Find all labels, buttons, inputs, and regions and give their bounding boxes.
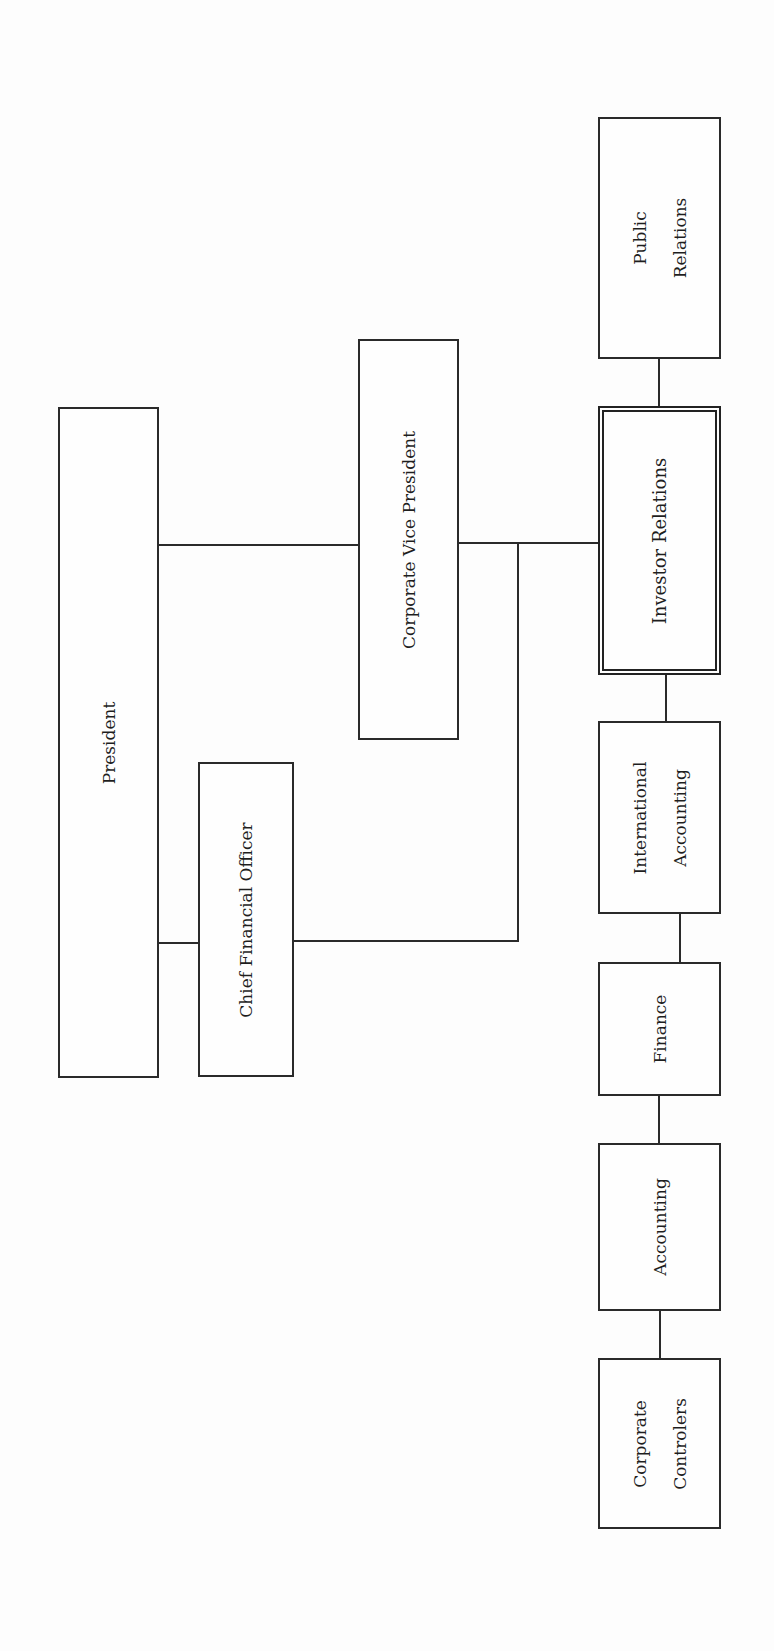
node-chief-financial-officer[interactable]: Chief Financial Officer: [198, 762, 294, 1077]
node-corporate-vice-president[interactable]: Corporate Vice President: [358, 339, 459, 740]
connector-accounting-controlers: [659, 1310, 661, 1359]
connector-finance-accounting: [658, 1095, 660, 1144]
connector-president-cvp: [158, 544, 359, 546]
node-international-accounting[interactable]: International Accounting: [598, 721, 721, 914]
node-label: Corporate Controlers: [620, 1398, 700, 1490]
connector-trunk-vertical: [517, 542, 519, 942]
node-finance[interactable]: Finance: [598, 962, 721, 1096]
connector-president-cfo: [158, 942, 199, 944]
investor-relations-label: Investor Relations: [640, 457, 680, 624]
node-label: Corporate Vice President: [389, 431, 429, 649]
node-label: Accounting: [640, 1178, 680, 1276]
node-label: Finance: [640, 995, 680, 1064]
node-label: International Accounting: [620, 761, 700, 874]
node-accounting[interactable]: Accounting: [598, 1143, 721, 1311]
connector-investor-intl: [665, 674, 667, 722]
node-public-relations[interactable]: Public Relations: [598, 117, 721, 359]
accounting-label: Accounting: [640, 1178, 680, 1276]
node-label: President: [89, 701, 129, 784]
node-investor-relations[interactable]: Investor Relations: [598, 406, 721, 675]
corporate-controlers-label-line1: Corporate: [620, 1398, 660, 1490]
president-label: President: [89, 701, 129, 784]
node-label: Public Relations: [620, 198, 700, 279]
public-relations-label-line1: Public: [620, 198, 660, 279]
connector-intl-finance: [679, 913, 681, 963]
intl-accounting-label-line1: International: [620, 761, 660, 874]
connector-public-investor: [658, 358, 660, 407]
cvp-label: Corporate Vice President: [389, 431, 429, 649]
connector-cfo-trunk: [293, 940, 519, 942]
public-relations-label-line2: Relations: [660, 198, 700, 279]
org-chart-canvas: President Chief Financial Officer Corpor…: [0, 0, 774, 1651]
node-label: Investor Relations: [640, 457, 680, 624]
intl-accounting-label-line2: Accounting: [660, 761, 700, 874]
finance-label: Finance: [640, 995, 680, 1064]
cfo-label: Chief Financial Officer: [226, 822, 266, 1018]
node-president[interactable]: President: [58, 407, 159, 1078]
node-label: Chief Financial Officer: [226, 822, 266, 1018]
node-corporate-controlers[interactable]: Corporate Controlers: [598, 1358, 721, 1529]
connector-cvp-investor-relations: [458, 542, 599, 544]
corporate-controlers-label-line2: Controlers: [660, 1398, 700, 1490]
